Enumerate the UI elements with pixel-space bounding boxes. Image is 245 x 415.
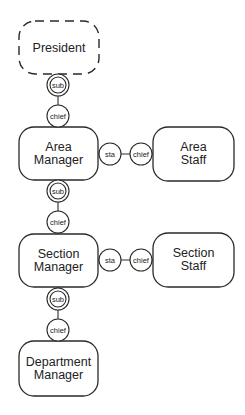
chief-port-department-manager: chief: [47, 319, 69, 341]
node-department-manager: Department Manager: [19, 341, 98, 396]
svg-text:chief: chief: [133, 150, 150, 159]
node-section-manager-line1: Section: [38, 247, 80, 261]
svg-text:chief: chief: [50, 112, 67, 121]
svg-text:sta: sta: [105, 256, 116, 265]
svg-text:sub: sub: [52, 187, 64, 196]
node-section-manager: Section Manager: [19, 234, 98, 287]
node-area-manager-line2: Manager: [34, 153, 83, 167]
node-president-label: President: [33, 41, 86, 55]
chief-port-area-manager: chief: [47, 105, 69, 127]
svg-text:chief: chief: [50, 218, 67, 227]
node-section-staff-line2: Staff: [181, 259, 207, 273]
node-area-staff-line2: Staff: [181, 153, 207, 167]
sub-port-section-manager: sub: [47, 288, 69, 310]
node-section-manager-line2: Manager: [34, 260, 83, 274]
sub-port-president: sub: [47, 74, 69, 96]
node-department-manager-line1: Department: [26, 355, 92, 369]
svg-text:chief: chief: [50, 326, 67, 335]
svg-text:sub: sub: [52, 81, 64, 90]
node-area-manager-line1: Area: [45, 140, 71, 154]
sta-port-section-manager: sta: [99, 249, 121, 271]
node-department-manager-line2: Manager: [34, 368, 83, 382]
sub-port-area-manager: sub: [47, 180, 69, 202]
svg-text:chief: chief: [133, 256, 150, 265]
chief-port-section-staff: chief: [130, 249, 152, 271]
svg-text:sta: sta: [105, 150, 116, 159]
chief-port-area-staff: chief: [130, 143, 152, 165]
chief-port-section-manager: chief: [47, 211, 69, 233]
sta-port-area-manager: sta: [99, 143, 121, 165]
org-diagram: President Area Manager Area Staff Sectio…: [0, 0, 245, 415]
node-president: President: [19, 21, 99, 74]
node-area-manager: Area Manager: [19, 127, 98, 180]
node-area-staff-line1: Area: [180, 140, 206, 154]
node-section-staff: Section Staff: [153, 233, 234, 287]
node-area-staff: Area Staff: [153, 127, 234, 181]
svg-text:sub: sub: [52, 295, 64, 304]
node-section-staff-line1: Section: [173, 246, 215, 260]
